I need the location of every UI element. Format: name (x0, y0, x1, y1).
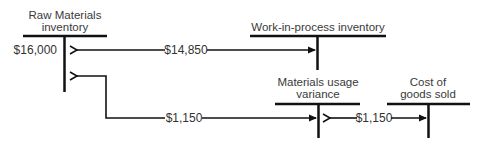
t-account-cogs: Cost of goods sold (387, 76, 470, 138)
flow-origin-bracket-icon (70, 46, 77, 54)
raw-materials-label-line1: Raw Materials (29, 9, 102, 21)
t-account-diagram: Raw Materials inventory $16,000 $14,850 … (0, 0, 491, 148)
t-account-wip: Work-in-process inventory (250, 21, 386, 70)
flow-amount-1150-b: $1,150 (356, 111, 393, 125)
cogs-label-line2: goods sold (400, 88, 456, 100)
variance-label-line2: variance (296, 88, 339, 100)
flow-variance-to-cogs: $1,150 (323, 111, 426, 125)
raw-materials-debit-amount: $16,000 (14, 43, 58, 57)
diagram-svg: Raw Materials inventory $16,000 $14,850 … (0, 0, 491, 148)
flow-origin-bracket-icon (323, 114, 330, 122)
flow-raw-to-wip: $14,850 (70, 43, 315, 57)
flow-origin-bracket-icon (70, 72, 77, 80)
variance-label-line1: Materials usage (277, 76, 358, 88)
cogs-label-line1: Cost of (410, 76, 447, 88)
flow-amount-14850: $14,850 (164, 43, 208, 57)
raw-materials-label-line2: inventory (42, 21, 89, 33)
flow-amount-1150-a: $1,150 (166, 111, 203, 125)
wip-label: Work-in-process inventory (251, 21, 385, 33)
t-account-variance: Materials usage variance (275, 76, 360, 138)
